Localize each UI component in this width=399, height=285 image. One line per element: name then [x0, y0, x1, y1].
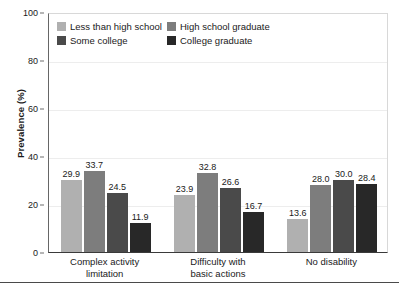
bar-value-label: 23.9 [176, 185, 194, 194]
legend-swatch [57, 22, 66, 31]
bar-value-label: 24.5 [108, 183, 126, 192]
bar: 29.9 [61, 180, 82, 252]
bar-value-label: 33.7 [85, 161, 103, 170]
bar: 11.9 [130, 223, 151, 252]
bar-value-label: 28.0 [312, 175, 330, 184]
x-axis-group-label: Difficulty withbasic actions [158, 256, 278, 279]
bar-value-label: 26.6 [222, 178, 240, 187]
y-tick-label: 40 [0, 152, 38, 162]
legend-item: Less than high school [57, 20, 167, 33]
legend-label: Some college [70, 36, 128, 46]
y-tick-label: 20 [0, 200, 38, 210]
bar: 33.7 [84, 171, 105, 252]
plot-area: 29.933.724.511.923.932.826.616.713.628.0… [48, 13, 388, 253]
bar: 26.6 [220, 188, 241, 252]
x-axis-group-label: No disability [271, 256, 391, 268]
bar-value-label: 28.4 [358, 174, 376, 183]
bar: 23.9 [174, 195, 195, 252]
legend-item: High school graduate [167, 20, 307, 33]
bar: 30.0 [333, 180, 354, 252]
y-tick-mark [40, 13, 44, 14]
y-tick-mark [40, 109, 44, 110]
x-axis-labels: Complex activitylimitationDifficulty wit… [48, 256, 388, 285]
bar-value-label: 16.7 [245, 202, 263, 211]
bar: 28.0 [310, 185, 331, 252]
y-tick-mark [40, 253, 44, 254]
bar: 32.8 [197, 173, 218, 252]
x-axis-group-label-line: limitation [45, 268, 165, 280]
bar: 16.7 [243, 212, 264, 252]
bar-chart: Prevalence (%) 020406080100 29.933.724.5… [0, 0, 399, 285]
legend-swatch [57, 36, 66, 45]
legend-swatch [167, 36, 176, 45]
bottom-rule [0, 282, 399, 283]
legend-label: High school graduate [180, 22, 270, 32]
y-tick-label: 60 [0, 104, 38, 114]
x-axis-group-label-line: Difficulty with [158, 256, 278, 268]
bar-value-label: 13.6 [289, 209, 307, 218]
bar-value-label: 11.9 [132, 213, 149, 222]
y-tick-label: 80 [0, 56, 38, 66]
bar: 13.6 [287, 219, 308, 252]
y-tick-label: 100 [0, 8, 38, 18]
x-axis-group-label-line: basic actions [158, 268, 278, 280]
x-axis-group-label-line: Complex activity [45, 256, 165, 268]
legend-item: College graduate [167, 34, 307, 47]
bar-value-label: 29.9 [62, 170, 80, 179]
y-tick-mark [40, 61, 44, 62]
legend-item: Some college [57, 34, 167, 47]
legend-swatch [167, 22, 176, 31]
bar: 28.4 [356, 184, 377, 252]
bar: 24.5 [107, 193, 128, 252]
x-axis-group-label: Complex activitylimitation [45, 256, 165, 279]
y-tick-label: 0 [0, 248, 38, 258]
chart-legend: Less than high schoolHigh school graduat… [57, 20, 307, 47]
legend-label: College graduate [180, 36, 252, 46]
y-tick-mark [40, 157, 44, 158]
bars-layer: 29.933.724.511.923.932.826.616.713.628.0… [49, 14, 387, 252]
x-axis-group-label-line: No disability [271, 256, 391, 268]
bar-value-label: 32.8 [199, 163, 217, 172]
legend-label: Less than high school [70, 22, 162, 32]
y-axis-ticks: 020406080100 [0, 0, 48, 285]
bar-value-label: 30.0 [335, 170, 353, 179]
y-tick-mark [40, 205, 44, 206]
